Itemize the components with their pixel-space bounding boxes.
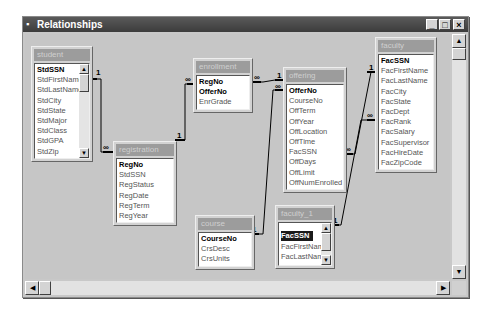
field-offerno[interactable]: OfferNo — [199, 87, 249, 97]
field-facsupervisor[interactable]: FacSupervisor — [381, 138, 433, 148]
table-student[interactable]: student StdSSN StdFirstName StdLastName … — [31, 46, 93, 162]
field-offyear[interactable]: OffYear — [289, 117, 343, 127]
field-facssn[interactable]: FacSSN — [381, 56, 433, 66]
field-stdssn[interactable]: StdSSN — [119, 170, 173, 180]
table-header[interactable]: registration — [116, 144, 174, 156]
field-offterm[interactable]: OffTerm — [289, 106, 343, 116]
scroll-down-arrow-icon[interactable]: ▼ — [452, 265, 466, 279]
maximize-button[interactable]: □ — [439, 19, 451, 30]
vertical-scroll-thumb[interactable] — [452, 48, 466, 60]
table-registration[interactable]: registration RegNo StdSSN RegStatus RegD… — [113, 141, 177, 226]
field-fachiredate[interactable]: FacHireDate — [381, 148, 433, 158]
field-facsalary[interactable]: FacSalary — [381, 127, 433, 137]
rel-one-label: 1 — [369, 64, 373, 72]
scroll-up-arrow-icon[interactable]: ▲ — [321, 223, 331, 233]
rel-many-label: ∞ — [103, 144, 109, 152]
system-menu-icon[interactable]: ▪ — [26, 20, 35, 29]
scroll-down-arrow-icon[interactable]: ▼ — [79, 148, 89, 158]
table-header[interactable]: course — [198, 218, 252, 230]
table-header[interactable]: faculty_1 — [278, 208, 332, 220]
scroll-down-arrow-icon[interactable]: ▼ — [321, 255, 331, 265]
field-regstatus[interactable]: RegStatus — [119, 180, 173, 190]
scroll-up-arrow-icon[interactable]: ▲ — [79, 64, 89, 74]
vertical-scrollbar[interactable]: ▲ ▼ — [452, 34, 466, 279]
field-regno[interactable]: RegNo — [119, 160, 173, 170]
field-facssn[interactable]: FacSSN — [289, 147, 343, 157]
field-list[interactable]: RegNo StdSSN RegStatus RegDate RegTerm R… — [116, 158, 174, 223]
rel-one-label: 1 — [96, 69, 100, 77]
field-offtime[interactable]: OffTime — [289, 137, 343, 147]
table-scrollbar[interactable]: ▲ ▼ — [79, 64, 89, 158]
table-header[interactable]: offering — [286, 70, 344, 82]
field-crsdesc[interactable]: CrsDesc — [201, 244, 251, 254]
rel-many-label: ∞ — [185, 76, 191, 84]
field-list[interactable]: FacSSN FacFirstName FacLastName FacCity … — [378, 54, 434, 170]
field-offerno[interactable]: OfferNo — [289, 86, 343, 96]
table-faculty[interactable]: faculty FacSSN FacFirstName FacLastName … — [375, 37, 437, 173]
field-regno[interactable]: RegNo — [199, 77, 249, 87]
field-regdate[interactable]: RegDate — [119, 191, 173, 201]
rel-many-label: ∞ — [275, 83, 281, 91]
table-enrollment[interactable]: enrollment RegNo OfferNo EnrGrade — [193, 58, 253, 113]
field-regyear[interactable]: RegYear — [119, 211, 173, 221]
field-regterm[interactable]: RegTerm — [119, 201, 173, 211]
field-facdept[interactable]: FacDept — [381, 107, 433, 117]
field-list[interactable]: StdSSN StdFirstName StdLastName StdCity … — [34, 63, 90, 159]
field-crsunits[interactable]: CrsUnits — [201, 254, 251, 264]
scroll-up-arrow-icon[interactable]: ▲ — [452, 34, 466, 48]
close-button[interactable]: × — [453, 19, 465, 30]
field-faccity[interactable]: FacCity — [381, 87, 433, 97]
field-offnumenrolled[interactable]: OffNumEnrolled — [289, 178, 343, 188]
scroll-thumb[interactable] — [79, 74, 89, 92]
field-enrgrade[interactable]: EnrGrade — [199, 97, 249, 107]
rel-many-label: ∞ — [254, 74, 260, 82]
table-offering[interactable]: offering OfferNo CourseNo OffTerm OffYea… — [283, 67, 347, 193]
rel-many-label: ∞ — [367, 112, 373, 120]
horizontal-scrollbar[interactable]: ◀ ▶ — [25, 281, 450, 295]
field-facssn-selected[interactable]: FacSSN — [281, 231, 313, 241]
rel-one-label: 1 — [277, 72, 281, 80]
table-header[interactable]: enrollment — [196, 61, 250, 73]
table-header[interactable]: student — [34, 49, 90, 61]
resize-grip-icon[interactable] — [452, 281, 466, 295]
field-courseno[interactable]: CourseNo — [289, 96, 343, 106]
field-facfirstname[interactable]: FacFirstName — [381, 66, 433, 76]
field-offlimit[interactable]: OffLimit — [289, 168, 343, 178]
field-faclastname[interactable]: FacLastName — [381, 76, 433, 86]
scroll-left-arrow-icon[interactable]: ◀ — [25, 281, 39, 295]
field-offlocation[interactable]: OffLocation — [289, 127, 343, 137]
window-title: Relationships — [37, 17, 103, 32]
scroll-thumb[interactable] — [321, 233, 331, 251]
relationships-canvas[interactable]: 1 ∞ 1 ∞ ∞ 1 1 ∞ ∞ 1 1 ∞ student StdSSN S… — [25, 34, 450, 279]
field-list[interactable]: CourseNo CrsDesc CrsUnits — [198, 232, 252, 267]
field-list[interactable]: RegNo OfferNo EnrGrade — [196, 75, 250, 110]
field-list[interactable]: OfferNo CourseNo OffTerm OffYear OffLoca… — [286, 84, 344, 190]
relationships-window: ▪ Relationships _ □ × — [22, 16, 469, 298]
title-bar[interactable]: ▪ Relationships _ □ × — [23, 17, 468, 32]
rel-one-label: 1 — [177, 132, 181, 140]
minimize-button[interactable]: _ — [426, 19, 438, 30]
field-facstate[interactable]: FacState — [381, 97, 433, 107]
field-facrank[interactable]: FacRank — [381, 117, 433, 127]
field-faczipcode[interactable]: FacZipCode — [381, 158, 433, 168]
field-list[interactable]: FacSSN FacFirstName FacLastName ▲ ▼ — [278, 222, 332, 266]
table-faculty-1[interactable]: faculty_1 FacSSN FacFirstName FacLastNam… — [275, 205, 335, 269]
table-header[interactable]: faculty — [378, 40, 434, 52]
horizontal-scroll-thumb[interactable] — [39, 281, 51, 295]
field-courseno[interactable]: CourseNo — [201, 234, 251, 244]
field-offdays[interactable]: OffDays — [289, 157, 343, 167]
table-course[interactable]: course CourseNo CrsDesc CrsUnits — [195, 215, 255, 270]
scroll-right-arrow-icon[interactable]: ▶ — [436, 281, 450, 295]
table-scrollbar[interactable]: ▲ ▼ — [321, 223, 331, 265]
